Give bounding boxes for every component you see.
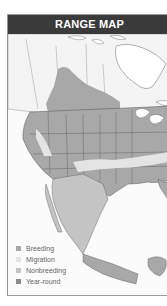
legend-item-breeding: Breeding: [16, 243, 66, 254]
range-map-panel: RANGE MAP Breeding: [7, 14, 167, 296]
migration-swatch: [16, 257, 21, 262]
southern-mexico: [83, 254, 138, 284]
range-map-title: RANGE MAP: [8, 15, 167, 34]
legend-label-nonbreeding: Nonbreeding: [26, 265, 66, 276]
gulf-coast: [158, 179, 167, 209]
legend-label-breeding: Breeding: [26, 243, 54, 254]
legend-item-nonbreeding: Nonbreeding: [16, 265, 66, 276]
legend-label-yearround: Year-round: [26, 276, 60, 287]
yucatan: [148, 257, 166, 276]
nonbreeding-range: [52, 174, 108, 254]
breeding-swatch: [16, 246, 21, 251]
nonbreeding-swatch: [16, 268, 21, 273]
legend-label-migration: Migration: [26, 254, 55, 265]
yearround-swatch: [16, 279, 21, 284]
legend-item-yearround: Year-round: [16, 276, 66, 287]
legend-item-migration: Migration: [16, 254, 66, 265]
map-legend: Breeding Migration Nonbreeding Year-roun…: [16, 243, 66, 287]
